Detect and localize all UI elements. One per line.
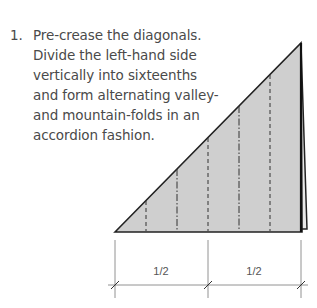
- origami-diagram: 1/2 1/2: [0, 0, 317, 308]
- dimension-label: 1/2: [246, 265, 261, 277]
- dimension-label: 1/2: [153, 265, 168, 277]
- dimension-lines: [108, 240, 308, 298]
